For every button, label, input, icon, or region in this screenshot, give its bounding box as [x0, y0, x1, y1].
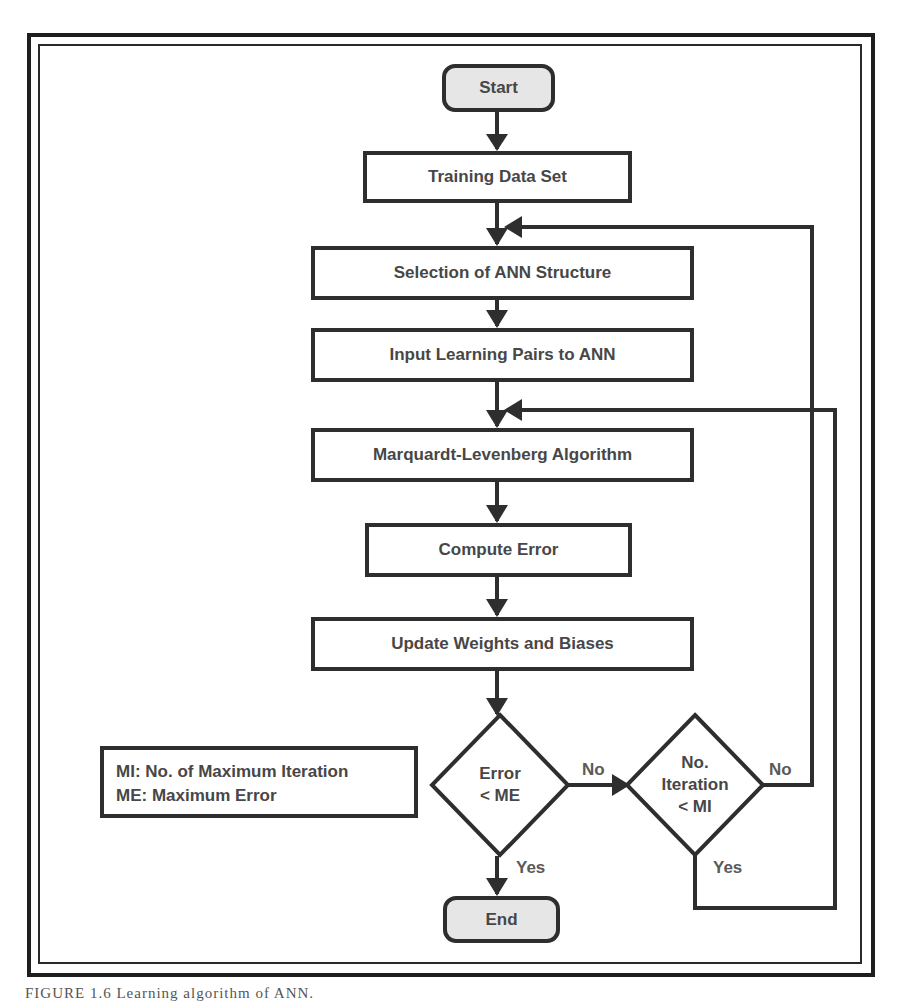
- legend-box: MI: No. of Maximum Iteration ME: Maximum…: [100, 746, 418, 818]
- decision-error-line1: Error: [450, 763, 550, 785]
- edge-label-iteration-no: No: [769, 760, 792, 780]
- legend-me: ME: Maximum Error: [116, 784, 414, 808]
- update-weights-label: Update Weights and Biases: [391, 634, 614, 654]
- selection-label: Selection of ANN Structure: [394, 263, 612, 283]
- input-pairs-label: Input Learning Pairs to ANN: [389, 345, 615, 365]
- start-label: Start: [479, 78, 518, 98]
- selection-node: Selection of ANN Structure: [311, 246, 694, 300]
- edge-label-error-yes: Yes: [516, 858, 545, 878]
- decision-iteration-line3: < MI: [640, 796, 750, 818]
- decision-iteration-line1: No.: [640, 752, 750, 774]
- start-node: Start: [442, 64, 555, 112]
- training-data-label: Training Data Set: [428, 167, 567, 187]
- training-data-node: Training Data Set: [363, 151, 632, 203]
- arrow-iteration-no-loop: [518, 227, 812, 785]
- decision-iteration-text: No. Iteration < MI: [640, 752, 750, 818]
- end-node: End: [443, 896, 560, 943]
- input-pairs-node: Input Learning Pairs to ANN: [311, 328, 694, 382]
- decision-error-line2: < ME: [450, 785, 550, 807]
- algorithm-node: Marquardt-Levenberg Algorithm: [311, 428, 694, 482]
- figure-caption: FIGURE 1.6 Learning algorithm of ANN.: [25, 985, 314, 1002]
- legend-mi: MI: No. of Maximum Iteration: [116, 760, 414, 784]
- edge-label-error-no: No: [582, 760, 605, 780]
- algorithm-label: Marquardt-Levenberg Algorithm: [373, 445, 632, 465]
- decision-error-text: Error < ME: [450, 763, 550, 807]
- compute-error-label: Compute Error: [439, 540, 559, 560]
- compute-error-node: Compute Error: [365, 523, 632, 577]
- edge-label-iteration-yes: Yes: [713, 858, 742, 878]
- update-weights-node: Update Weights and Biases: [311, 617, 694, 671]
- end-label: End: [485, 910, 517, 930]
- decision-iteration-line2: Iteration: [640, 774, 750, 796]
